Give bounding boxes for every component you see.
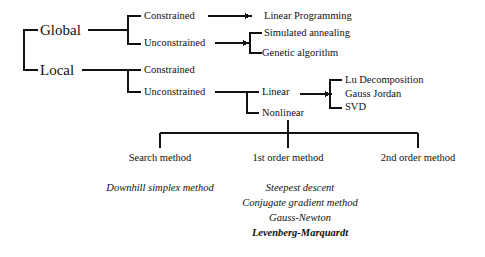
column-first-order-method: 1st order method [252, 153, 323, 164]
method-gauss-newton: Gauss-Newton [269, 213, 331, 224]
leaf-svd: SVD [345, 102, 366, 113]
linear-results-arrow [300, 91, 332, 97]
global-constrained-arrow [208, 13, 252, 19]
column-search-method: Search method [129, 153, 192, 164]
method-downhill-simplex: Downhill simplex method [106, 183, 213, 194]
method-levenberg-marquardt: Levenberg-Marquardt [252, 228, 348, 239]
method-steepest-descent: Steepest descent [266, 183, 335, 194]
leaf-simulated-annealing: Simulated annealing [264, 28, 350, 39]
node-nonlinear: Nonlinear [262, 108, 304, 119]
node-local-unconstrained: Unconstrained [144, 87, 205, 98]
node-global: Global [40, 23, 81, 38]
node-local-constrained: Constrained [144, 65, 195, 76]
global-children-bracket [128, 16, 141, 44]
leaf-gauss-jordan: Gauss Jordan [345, 89, 401, 100]
node-local: Local [40, 63, 74, 78]
nonlinear-distribution-bar [160, 133, 418, 148]
method-conjugate-gradient: Conjugate gradient method [242, 198, 358, 209]
global-unconstrained-arrow [215, 40, 250, 46]
leaf-lu-decomposition: Lu Decomposition [345, 75, 423, 86]
column-second-order-method: 2nd order method [381, 153, 456, 164]
root-bracket [24, 30, 38, 70]
node-linear: Linear [262, 87, 289, 98]
linear-nonlinear-bracket [247, 92, 259, 113]
local-children-bracket [128, 70, 141, 92]
tree-connector-lines [0, 0, 485, 257]
node-global-unconstrained: Unconstrained [144, 38, 205, 49]
node-global-constrained: Constrained [144, 11, 195, 22]
optimization-taxonomy-diagram: Global Local Constrained Unconstrained C… [0, 0, 485, 257]
leaf-linear-programming: Linear Programming [264, 11, 352, 22]
leaf-genetic-algorithm: Genetic algorithm [262, 48, 338, 59]
global-unconstrained-results-bracket [250, 33, 262, 53]
